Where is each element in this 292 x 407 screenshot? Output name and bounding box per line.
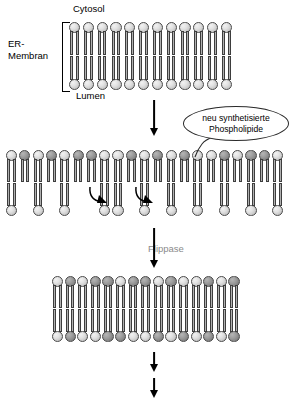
lipid-tail [79,159,82,182]
lipid-upper [102,276,113,309]
lipid-lower [102,309,113,342]
lipid-tail [60,183,63,206]
lipid-upper [52,276,63,309]
lipid-tail [172,56,175,80]
lipid-tail [235,309,238,332]
lipid-tail [53,285,56,308]
lipid-tail [228,31,231,55]
lipid-lower [166,56,177,90]
lipid-tail [147,285,150,308]
lipid-tail [154,309,157,332]
er-membrane-initial [69,22,235,90]
lipid-tail [90,31,93,55]
lipid-head [6,205,17,216]
lipid-upper [153,276,164,309]
lipid-tail [247,183,250,206]
lipid-tail [179,285,182,308]
lipid-upper [191,276,202,309]
lipid-head [124,79,135,90]
lipid-tail [230,309,233,332]
lipid-lower [59,183,70,216]
label-cytosol: Cytosol [73,3,105,14]
lipid-upper [6,150,17,183]
lipid-head [33,205,44,216]
lipid-tail [147,309,150,332]
arrow-head [150,128,158,136]
lipid-lower [152,56,163,90]
lipid-tail [252,183,255,206]
lipid-upper [77,276,88,309]
lipid-tail [208,56,211,80]
lipid-tail [47,159,50,182]
lipid-tail [279,159,282,182]
lipid-lower [97,56,108,90]
lipid-lower [6,183,17,216]
lipid-tail [159,31,162,55]
lipid-lower [153,309,164,342]
lipid-tail [104,309,107,332]
lipid-tail [186,159,189,182]
lipid-tail [97,309,100,332]
lipid-tail [145,31,148,55]
lipid-upper [86,150,97,183]
lipid-tail [21,159,24,182]
lipid-tail [192,285,195,308]
lipid-tail [116,309,119,332]
lipid-tail [167,309,170,332]
lipid-tail [193,183,196,206]
lipid-tail [84,31,87,55]
lipid-upper [221,22,232,56]
lipid-upper [216,276,227,309]
lipid-head [59,205,70,216]
lipid-head [219,205,230,216]
lipid-tail [141,285,144,308]
lipid-upper [128,276,139,309]
lipid-head [110,79,121,90]
lipid-tail [76,31,79,55]
lipid-head [272,205,283,216]
lipid-lower [193,56,204,90]
lipid-tail [220,183,223,206]
lipid-tail [172,309,175,332]
lipid-head [245,205,256,216]
lipid-head [115,331,126,342]
lipid-tail [252,159,255,182]
lipid-head [203,331,214,342]
lipid-lower [221,56,232,90]
lipid-tail [74,159,77,182]
lipid-tail [172,183,175,206]
lipid-lower [115,309,126,342]
lipid-tail [181,31,184,55]
lipid-tail [125,56,128,80]
lipid-tail [185,309,188,332]
lipid-tail [260,159,263,182]
lipid-tail [7,183,10,206]
lipid-upper [193,22,204,56]
lipid-tail [239,159,242,182]
lipid-tail [66,159,69,182]
lipid-upper [97,22,108,56]
lipid-tail [223,285,226,308]
lipid-lower [110,56,121,90]
lipid-upper [140,276,151,309]
lipid-tail [84,56,87,80]
lipid-lower [65,309,76,342]
lipid-tail [193,159,196,182]
lipid-upper [33,150,44,183]
lipid-lower [272,183,283,216]
lipid-upper [126,150,137,183]
lipid-tail [60,159,63,182]
lipid-tail [139,31,142,55]
lipid-tail [226,159,229,182]
lipid-upper [245,150,256,183]
lipid-tail [273,159,276,182]
lipid-lower [216,309,227,342]
lipid-upper [179,22,190,56]
lipid-lower [179,56,190,90]
lipid-tail [78,285,81,308]
lipid-tail [53,309,56,332]
lipid-tail [98,31,101,55]
lipid-tail [66,183,69,206]
lipid-tail [134,285,137,308]
lipid-tail [146,159,149,182]
